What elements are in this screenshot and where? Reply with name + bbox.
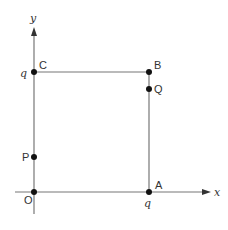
coordinate-diagram: y x q q O A B C P Q [0,0,228,230]
label-o: O [24,194,33,206]
y-tick-label: q [20,67,27,80]
label-p: P [22,151,29,163]
point-b [146,69,152,75]
label-b: B [154,59,161,71]
y-axis-label: y [29,12,37,25]
label-a: A [155,179,163,191]
point-p [31,154,37,160]
y-axis-arrow-icon [31,27,37,36]
point-c [31,69,37,75]
point-a [146,189,152,195]
x-axis-arrow-icon [202,189,211,195]
point-q [146,86,152,92]
x-axis-label: x [214,186,221,199]
x-tick-label: q [144,197,151,210]
label-q: Q [154,83,163,95]
label-c: C [39,59,47,71]
